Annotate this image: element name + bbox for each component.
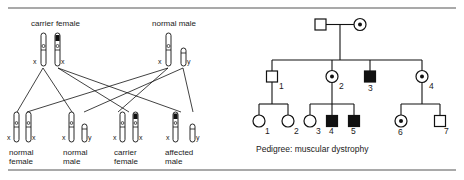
allele-label: x [166, 134, 170, 141]
chromosome-x-normal: x [113, 112, 125, 142]
generation-1 [315, 19, 366, 61]
parent-normal-male-chromosomes: x y [158, 33, 191, 66]
offspring-label-line1: normal [9, 148, 34, 157]
allele-label: x [139, 134, 143, 141]
chromosome-x-normal: x [7, 112, 19, 142]
parent-label-carrier-female: carrier female [31, 19, 80, 28]
chromosome-x-normal: x [62, 112, 74, 142]
pedigree-member-3-1: 1 [253, 115, 270, 136]
member-number: 1 [265, 126, 270, 136]
offspring-normal-female: x x normal female [7, 112, 36, 166]
pedigree-member-2-1: 1 [267, 71, 285, 91]
pedigree-member-3-3: 3 [304, 115, 321, 136]
allele-label: x [32, 134, 36, 141]
allele-label: x [7, 134, 11, 141]
left-panel-chromosome-cross: carrier female normal male x x [7, 19, 200, 166]
pedigree-member-2-4: 4 [416, 71, 434, 92]
offspring-normal-male: x y normal male [62, 112, 92, 166]
pedigree-caption: Pedigree: muscular dystrophy [256, 144, 369, 154]
chromosome-x-normal: x [26, 112, 36, 142]
chromosome-x-mutant: x [166, 112, 178, 142]
allele-label: y [187, 58, 191, 66]
pedigree-symbol-male-unaffected [315, 19, 326, 30]
parent-label-normal-male: normal male [152, 19, 197, 28]
pedigree-symbol-female-carrier [354, 19, 366, 31]
member-number: 3 [316, 126, 321, 136]
chromosome-y: y [82, 124, 92, 142]
pedigree-member-3-6: 6 [395, 115, 407, 137]
allele-label: y [196, 134, 200, 142]
allele-label: x [158, 58, 162, 65]
offspring-label-line2: female [114, 157, 139, 166]
generation-3: 1 2 3 4 5 6 [253, 115, 449, 137]
member-number: 5 [351, 126, 356, 136]
pedigree-member-2-2: 2 [326, 71, 344, 92]
member-number: 2 [294, 126, 299, 136]
chromosome-x-mutant: x [133, 112, 143, 142]
pedigree-member-3-2: 2 [282, 115, 299, 136]
member-number: 2 [339, 81, 344, 91]
allele-label: x [62, 134, 66, 141]
pedigree-member-3-4: 4 [327, 116, 338, 137]
member-number: 3 [368, 83, 373, 93]
chromosome-y: y [181, 48, 191, 66]
allele-label: x [113, 134, 117, 141]
chromosome-y: y [190, 124, 200, 142]
pedigree-member-3-5: 5 [349, 116, 360, 137]
genetics-figure: carrier female normal male x x [0, 0, 464, 180]
offspring-label-line2: female [9, 157, 34, 166]
allele-label: x [33, 58, 37, 65]
offspring-label-line2: male [165, 157, 183, 166]
right-panel-pedigree: 1 2 3 4 [253, 19, 449, 155]
member-number: 7 [444, 126, 449, 136]
chromosome-x-mutant: x [55, 33, 65, 66]
offspring-label-line1: carrier [114, 148, 137, 157]
member-number: 1 [279, 81, 284, 91]
generation-2: 1 2 3 4 [267, 71, 435, 94]
parent-carrier-female-chromosomes: x x [33, 33, 65, 66]
offspring-label-line2: male [63, 157, 81, 166]
chromosome-x-normal: x [33, 33, 46, 66]
chromosome-x-normal: x [158, 33, 171, 66]
gamete-combination-lines [17, 68, 193, 112]
allele-label: y [88, 134, 92, 142]
member-number: 4 [329, 126, 334, 136]
allele-label: x [61, 58, 65, 65]
offspring-carrier-female: x x carrier female [113, 112, 143, 166]
member-number: 4 [429, 81, 434, 91]
offspring-affected-male: x y affected male [165, 112, 200, 166]
offspring-label-line1: normal [63, 148, 88, 157]
pedigree-member-2-3: 3 [365, 71, 376, 93]
pedigree-member-3-7: 7 [435, 116, 450, 137]
offspring-label-line1: affected [165, 148, 193, 157]
member-number: 6 [398, 127, 403, 137]
